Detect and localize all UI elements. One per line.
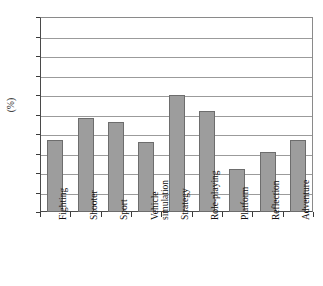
gridline — [41, 96, 312, 97]
gridline — [41, 174, 312, 175]
y-axis-title: (%) — [6, 98, 16, 112]
x-axis-tick-label: Strategy — [181, 188, 191, 220]
x-axis-tick — [252, 212, 253, 217]
x-axis-tick — [131, 212, 132, 217]
x-axis-tick — [101, 212, 102, 217]
x-axis-tick — [313, 212, 314, 217]
gridline — [41, 116, 312, 117]
x-axis-tick-label: Platform — [241, 187, 251, 220]
bar-chart: (%) 0102030405060708090100 FightingShoot… — [0, 0, 323, 286]
x-axis-tick-label: Shooter — [90, 190, 100, 220]
gridline — [41, 135, 312, 136]
x-axis-tick-label: Fighting — [59, 188, 69, 220]
gridline — [41, 38, 312, 39]
x-axis-tick — [283, 212, 284, 217]
x-axis-tick — [192, 212, 193, 217]
gridline — [41, 155, 312, 156]
x-axis-tick — [40, 212, 41, 217]
gridline — [41, 57, 312, 58]
x-axis-tick-label: Role-playing — [211, 170, 221, 220]
gridline — [41, 77, 312, 78]
x-axis-tick — [161, 212, 162, 217]
x-axis-tick — [70, 212, 71, 217]
x-axis-tick-label: Sport — [120, 199, 130, 220]
x-axis-tick-label: Reflection — [272, 180, 282, 220]
x-axis-tick — [222, 212, 223, 217]
x-axis-tick-label: Adventure — [302, 180, 312, 220]
